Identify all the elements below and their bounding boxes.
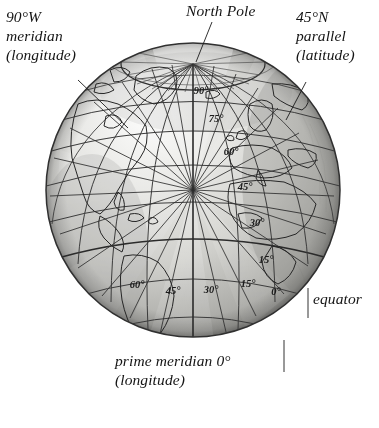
latitude-degree-label-4: 30° [249, 217, 266, 228]
longitude-degree-label-0: 60° [130, 279, 146, 290]
annotation-prime-meridian-line1: prime meridian 0° [115, 352, 231, 371]
longitude-degree-label-3: 15° [241, 278, 257, 289]
annotation-prime-meridian: prime meridian 0° (longitude) [115, 352, 231, 390]
annotation-equator-line1: equator [313, 290, 362, 309]
annotation-meridian-west-line3: (longitude) [6, 46, 76, 65]
longitude-degree-label-4: 0° [271, 286, 281, 297]
longitude-degree-label-2: 30° [203, 284, 220, 295]
latitude-degree-label-0: 90° [194, 85, 210, 96]
annotation-meridian-west-line2: meridian [6, 27, 76, 46]
longitude-degree-label-1: 45° [165, 285, 182, 296]
latitude-degree-label-1: 75° [209, 113, 225, 124]
annotation-parallel-north-line3: (latitude) [296, 46, 355, 65]
annotation-equator: equator [313, 290, 362, 309]
annotation-meridian-west: 90°W meridian (longitude) [6, 8, 76, 65]
annotation-meridian-west-line1: 90°W [6, 8, 76, 27]
latitude-degree-label-3: 45° [237, 181, 254, 192]
globe-diagram: 90°75°60°45°30°15° 60°45°30°15°0° 90°W m… [0, 0, 379, 428]
annotation-north-pole: North Pole [186, 2, 255, 21]
annotation-prime-meridian-line2: (longitude) [115, 371, 231, 390]
latitude-degree-label-2: 60° [224, 146, 240, 157]
annotation-parallel-north: 45°N parallel (latitude) [296, 8, 355, 65]
annotation-parallel-north-line2: parallel [296, 27, 355, 46]
annotation-parallel-north-line1: 45°N [296, 8, 355, 27]
annotation-north-pole-line1: North Pole [186, 2, 255, 21]
latitude-degree-label-5: 15° [259, 254, 275, 265]
